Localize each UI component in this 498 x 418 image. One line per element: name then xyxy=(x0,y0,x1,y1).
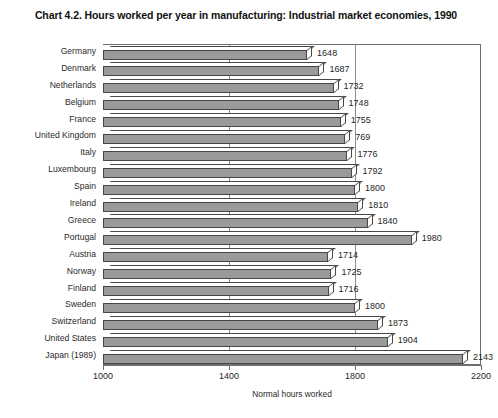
bar-portugal[interactable] xyxy=(103,231,412,245)
bar-front-face xyxy=(103,134,345,144)
bar-luxembourg[interactable] xyxy=(103,164,352,178)
bar-front-face xyxy=(103,286,329,296)
bar-spain[interactable] xyxy=(103,181,355,195)
bar-sweden[interactable] xyxy=(103,299,355,313)
bar-row: Sweden1800 xyxy=(0,297,492,314)
bar-united-states[interactable] xyxy=(103,333,388,347)
bar-front-face xyxy=(103,269,331,279)
bar-germany[interactable] xyxy=(103,46,307,60)
bar-value-label: 1873 xyxy=(388,318,408,328)
x-tick-1800 xyxy=(355,365,356,370)
bar-value-label: 1980 xyxy=(422,233,442,243)
bar-netherlands[interactable] xyxy=(103,79,334,93)
bar-front-face xyxy=(103,303,355,313)
category-label: Italy xyxy=(0,147,96,157)
bar-front-face xyxy=(103,151,347,161)
bar-italy[interactable] xyxy=(103,147,347,161)
x-axis-line xyxy=(103,365,481,366)
category-label: Denmark xyxy=(0,63,96,73)
chart-title: Chart 4.2. Hours worked per year in manu… xyxy=(0,9,492,21)
bar-value-label: 1755 xyxy=(351,115,371,125)
bar-row: Austria1714 xyxy=(0,247,492,264)
bar-row: Switzerland1873 xyxy=(0,314,492,331)
x-tick-label-1000: 1000 xyxy=(83,371,123,381)
bar-side-face xyxy=(378,316,383,330)
category-label: Germany xyxy=(0,46,96,56)
bar-front-face xyxy=(103,337,388,347)
bar-row: Belgium1748 xyxy=(0,95,492,112)
category-label: Netherlands xyxy=(0,80,96,90)
bar-front-face xyxy=(103,354,463,364)
bar-front-face xyxy=(103,202,358,212)
bar-greece[interactable] xyxy=(103,214,368,228)
bar-switzerland[interactable] xyxy=(103,316,378,330)
bar-value-label: 769 xyxy=(355,132,370,142)
category-label: France xyxy=(0,114,96,124)
bar-row: Denmark1687 xyxy=(0,61,492,78)
bar-side-face xyxy=(334,79,339,93)
x-tick-label-1800: 1800 xyxy=(335,371,375,381)
bar-row: Spain1800 xyxy=(0,179,492,196)
bar-denmark[interactable] xyxy=(103,62,319,76)
bar-front-face xyxy=(103,185,355,195)
bar-front-face xyxy=(103,100,339,110)
bar-row: Ireland1810 xyxy=(0,196,492,213)
bar-value-label: 1732 xyxy=(344,81,364,91)
bar-front-face xyxy=(103,66,319,76)
category-label: Spain xyxy=(0,181,96,191)
bar-value-label: 1904 xyxy=(398,335,418,345)
bar-value-label: 1792 xyxy=(362,166,382,176)
bar-side-face xyxy=(339,96,344,110)
category-label: Ireland xyxy=(0,198,96,208)
bar-front-face xyxy=(103,252,328,262)
bar-france[interactable] xyxy=(103,113,341,127)
bar-united-kingdom[interactable] xyxy=(103,130,345,144)
x-axis-title: Normal hours worked xyxy=(103,389,481,399)
bar-row: United Kingdom769 xyxy=(0,128,492,145)
bar-side-face xyxy=(341,113,346,127)
bar-row: Japan (1989)2143 xyxy=(0,348,492,365)
category-label: United States xyxy=(0,333,96,343)
bar-value-label: 1714 xyxy=(338,250,358,260)
bar-japan-1989[interactable] xyxy=(103,350,463,364)
bar-side-face xyxy=(368,214,373,228)
bar-value-label: 1648 xyxy=(317,48,337,58)
bar-value-label: 1800 xyxy=(365,183,385,193)
bar-ireland[interactable] xyxy=(103,198,358,212)
x-tick-1400 xyxy=(229,365,230,370)
bar-austria[interactable] xyxy=(103,248,328,262)
bar-side-face xyxy=(345,130,350,144)
bar-front-face xyxy=(103,218,368,228)
bar-front-face xyxy=(103,168,352,178)
bar-value-label: 1810 xyxy=(368,200,388,210)
category-label: Norway xyxy=(0,266,96,276)
bar-row: France1755 xyxy=(0,112,492,129)
bar-row: Germany1648 xyxy=(0,44,492,61)
bar-value-label: 1748 xyxy=(349,98,369,108)
x-tick-2200 xyxy=(481,365,482,370)
bar-finland[interactable] xyxy=(103,282,329,296)
category-label: Sweden xyxy=(0,299,96,309)
bar-value-label: 1840 xyxy=(378,216,398,226)
category-label: United Kingdom xyxy=(0,130,96,140)
category-label: Luxembourg xyxy=(0,164,96,174)
bar-side-face xyxy=(355,180,360,194)
category-label: Austria xyxy=(0,249,96,259)
bar-value-label: 1725 xyxy=(341,267,361,277)
category-label: Finland xyxy=(0,283,96,293)
category-label: Portugal xyxy=(0,232,96,242)
bar-side-face xyxy=(463,349,468,363)
bar-front-face xyxy=(103,320,378,330)
bar-side-face xyxy=(412,231,417,245)
bar-norway[interactable] xyxy=(103,265,331,279)
bar-belgium[interactable] xyxy=(103,96,339,110)
bar-front-face xyxy=(103,235,412,245)
category-label: Japan (1989) xyxy=(0,350,96,360)
bar-front-face xyxy=(103,83,334,93)
bar-side-face xyxy=(347,147,352,161)
bar-value-label: 2143 xyxy=(473,352,493,362)
bar-value-label: 1716 xyxy=(339,284,359,294)
category-label: Switzerland xyxy=(0,316,96,326)
bar-side-face xyxy=(358,197,363,211)
